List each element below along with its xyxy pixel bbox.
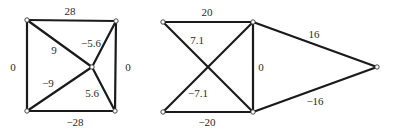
graph-diagram: 28 0 0 −28 9 −5.6 −9 5.6 20 −20 0 7.1 −7… bbox=[0, 0, 394, 134]
left-graph bbox=[25, 18, 118, 113]
edge-left-top bbox=[27, 20, 116, 21]
node-right-bottom-right bbox=[251, 110, 255, 114]
label-left-top: 28 bbox=[65, 6, 76, 17]
node-right-top-right bbox=[251, 20, 255, 24]
label-left-right: 0 bbox=[125, 62, 131, 73]
label-right-vertical: 0 bbox=[258, 62, 264, 73]
node-left-center bbox=[90, 65, 94, 69]
label-left-bottom: −28 bbox=[66, 117, 83, 128]
label-right-bottom: −20 bbox=[198, 117, 215, 128]
label-left-left: 0 bbox=[10, 62, 16, 73]
node-right-far bbox=[375, 65, 379, 69]
node-left-bottom-left bbox=[25, 109, 29, 113]
label-right-to-far-top: 16 bbox=[309, 29, 320, 40]
label-left-diag-br: 5.6 bbox=[85, 88, 99, 99]
label-left-diag-tl: 9 bbox=[51, 45, 57, 56]
edge-left-bl-center bbox=[27, 67, 92, 111]
node-right-bottom-left bbox=[161, 110, 165, 114]
label-right-to-far-bottom: −16 bbox=[306, 96, 323, 107]
label-right-diag-down: −7.1 bbox=[188, 88, 208, 99]
edge-left-right bbox=[115, 21, 116, 111]
node-right-top-left bbox=[161, 20, 165, 24]
label-left-diag-bl: −9 bbox=[42, 78, 54, 89]
label-right-diag-up: 7.1 bbox=[190, 35, 204, 46]
node-left-top-left bbox=[25, 18, 29, 22]
label-left-diag-tr: −5.6 bbox=[81, 38, 101, 49]
node-left-top-right bbox=[114, 19, 118, 23]
label-right-top: 20 bbox=[202, 7, 213, 18]
graph-edges-and-nodes bbox=[0, 0, 394, 134]
node-left-bottom-right bbox=[113, 109, 117, 113]
